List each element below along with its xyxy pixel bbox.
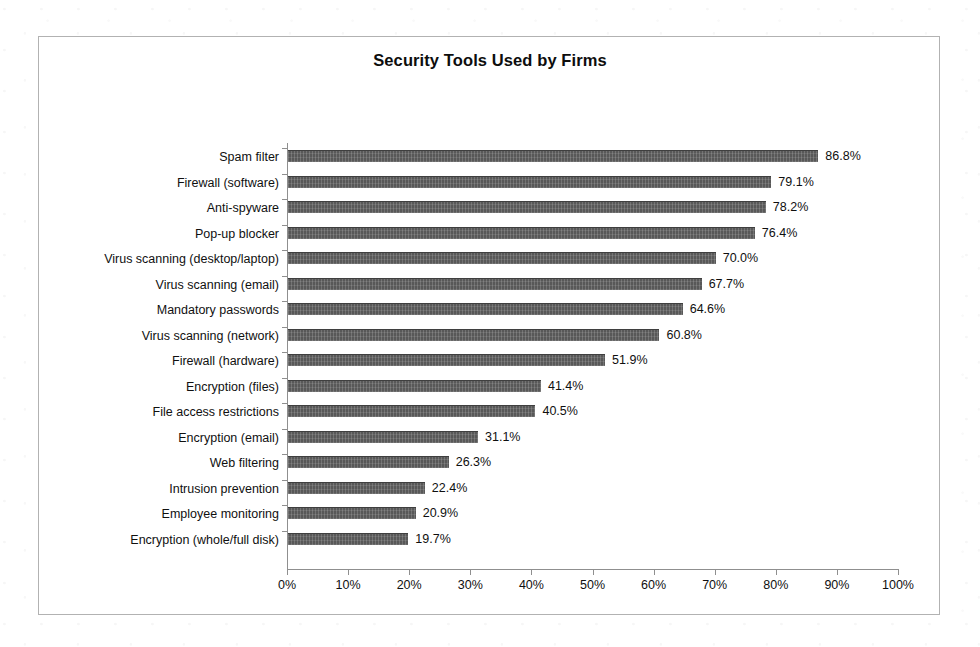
x-axis-tick	[531, 569, 532, 575]
x-axis-tick-label: 90%	[807, 578, 867, 592]
x-axis-tick-label: 100%	[868, 578, 928, 592]
x-axis-tick	[654, 569, 655, 575]
bar	[288, 278, 702, 290]
chart-frame: Security Tools Used by Firms Spam filter…	[38, 36, 940, 615]
x-axis-tick-label: 30%	[440, 578, 500, 592]
bar-value-label: 76.4%	[762, 226, 797, 240]
bar	[288, 354, 605, 366]
bar-value-label: 70.0%	[723, 251, 758, 265]
bar	[288, 176, 771, 188]
plot-area: Spam filter86.8%Firewall (software)79.1%…	[287, 149, 898, 569]
x-axis-tick	[715, 569, 716, 575]
bar	[288, 456, 449, 468]
y-axis-tick	[282, 403, 287, 404]
bar-row: Anti-spyware78.2%	[287, 200, 898, 226]
bar-value-label: 51.9%	[612, 353, 647, 367]
x-axis-tick	[409, 569, 410, 575]
x-axis-tick-label: 20%	[379, 578, 439, 592]
y-axis-tick	[282, 531, 287, 532]
x-axis-tick-label: 70%	[685, 578, 745, 592]
y-axis-tick	[282, 454, 287, 455]
bar-value-label: 86.8%	[825, 149, 860, 163]
category-label: File access restrictions	[153, 405, 279, 419]
category-label: Intrusion prevention	[169, 482, 279, 496]
y-axis-tick	[282, 276, 287, 277]
bar	[288, 431, 478, 443]
bar-row: Firewall (hardware)51.9%	[287, 353, 898, 379]
chart-title: Security Tools Used by Firms	[39, 51, 941, 70]
y-axis-tick	[282, 327, 287, 328]
bar	[288, 227, 755, 239]
y-axis-tick	[282, 378, 287, 379]
y-axis-tick	[282, 301, 287, 302]
bar-value-label: 22.4%	[432, 481, 467, 495]
bar	[288, 303, 683, 315]
x-axis-tick-label: 50%	[563, 578, 623, 592]
bar-value-label: 41.4%	[548, 379, 583, 393]
category-label: Mandatory passwords	[157, 303, 279, 317]
x-axis-tick-label: 60%	[624, 578, 684, 592]
category-label: Web filtering	[210, 456, 279, 470]
bar	[288, 150, 818, 162]
x-axis-tick	[287, 569, 288, 575]
y-axis-tick	[282, 148, 287, 149]
bar	[288, 507, 416, 519]
bar-row: Virus scanning (email)67.7%	[287, 277, 898, 303]
x-axis-tick-label: 10%	[318, 578, 378, 592]
y-axis-tick	[282, 225, 287, 226]
category-label: Employee monitoring	[162, 507, 279, 521]
bar-row: Mandatory passwords64.6%	[287, 302, 898, 328]
x-axis-tick	[470, 569, 471, 575]
bar-row: Pop-up blocker76.4%	[287, 226, 898, 252]
bar-row: Virus scanning (desktop/laptop)70.0%	[287, 251, 898, 277]
bar	[288, 201, 766, 213]
bar	[288, 329, 659, 341]
bar-value-label: 67.7%	[709, 277, 744, 291]
bar-value-label: 40.5%	[542, 404, 577, 418]
category-label: Virus scanning (network)	[142, 329, 279, 343]
bar-value-label: 64.6%	[690, 302, 725, 316]
x-axis-tick	[593, 569, 594, 575]
bar-value-label: 19.7%	[415, 532, 450, 546]
bar-row: Encryption (files)41.4%	[287, 379, 898, 405]
category-label: Anti-spyware	[207, 201, 279, 215]
bar-value-label: 78.2%	[773, 200, 808, 214]
bar-row: Spam filter86.8%	[287, 149, 898, 175]
bar-value-label: 60.8%	[666, 328, 701, 342]
bar-row: Firewall (software)79.1%	[287, 175, 898, 201]
x-axis-tick	[776, 569, 777, 575]
bar-row: Encryption (whole/full disk)19.7%	[287, 532, 898, 558]
category-label: Firewall (hardware)	[172, 354, 279, 368]
bar-row: Virus scanning (network)60.8%	[287, 328, 898, 354]
category-label: Spam filter	[219, 150, 279, 164]
bar-row: Employee monitoring20.9%	[287, 506, 898, 532]
y-axis-tick	[282, 199, 287, 200]
category-label: Virus scanning (email)	[156, 278, 279, 292]
x-axis-tick-label: 40%	[501, 578, 561, 592]
bar-value-label: 79.1%	[778, 175, 813, 189]
bar-row: File access restrictions40.5%	[287, 404, 898, 430]
x-axis-tick	[837, 569, 838, 575]
x-axis-tick-label: 0%	[257, 578, 317, 592]
x-axis-tick-label: 80%	[746, 578, 806, 592]
y-axis-tick	[282, 480, 287, 481]
x-axis-tick	[348, 569, 349, 575]
bar-row: Encryption (email)31.1%	[287, 430, 898, 456]
bar	[288, 380, 541, 392]
y-axis-tick	[282, 250, 287, 251]
y-axis-tick	[282, 429, 287, 430]
y-axis-tick	[282, 352, 287, 353]
bar-value-label: 20.9%	[423, 506, 458, 520]
bar	[288, 533, 408, 545]
bar-value-label: 26.3%	[456, 455, 491, 469]
category-label: Encryption (whole/full disk)	[130, 533, 279, 547]
bar	[288, 252, 716, 264]
category-label: Virus scanning (desktop/laptop)	[104, 252, 279, 266]
bar-row: Intrusion prevention22.4%	[287, 481, 898, 507]
category-label: Firewall (software)	[177, 176, 279, 190]
x-axis-tick	[898, 569, 899, 575]
bar	[288, 405, 535, 417]
bar-value-label: 31.1%	[485, 430, 520, 444]
bar	[288, 482, 425, 494]
y-axis-tick	[282, 505, 287, 506]
